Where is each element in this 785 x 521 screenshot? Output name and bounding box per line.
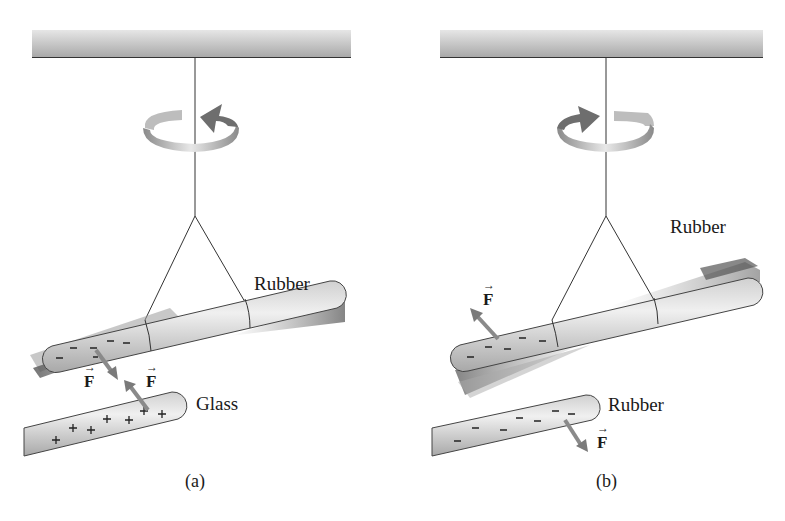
rotation-arrow-ccw-icon [143, 104, 239, 152]
force-label-nearby-b: F [597, 433, 607, 453]
caption-b: (b) [596, 471, 617, 492]
force-arrow-on-suspended-b [470, 308, 498, 339]
rubber-label-a: Rubber [254, 273, 310, 295]
caption-a: (a) [185, 471, 205, 492]
ceiling-support-a [32, 30, 351, 57]
rubber-label-nearby-b: Rubber [608, 394, 664, 416]
glass-label-a: Glass [196, 393, 238, 415]
electrostatics-diagram [0, 0, 785, 521]
panel-a [24, 30, 351, 456]
rubber-rod-suspended-b [450, 278, 762, 372]
force-arrow-on-nearby-b [565, 420, 588, 452]
glass-rod-a [24, 392, 187, 456]
force-label-suspended-b: F [483, 290, 493, 310]
rubber-rod-nearby-b [432, 395, 600, 456]
force-label-glass-a: F [146, 372, 156, 392]
rubber-label-suspended-b: Rubber [670, 216, 726, 238]
ceiling-support-b [440, 30, 763, 57]
panel-b [432, 30, 763, 456]
force-label-rubber-a: F [84, 372, 94, 392]
